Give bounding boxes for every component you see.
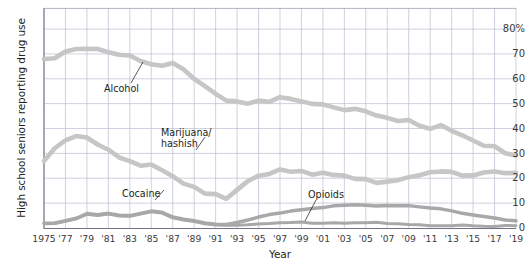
y-tick-40: 40: [489, 123, 525, 134]
y-tick-30: 30: [489, 148, 525, 159]
x-tick-2019: '19: [503, 233, 529, 244]
y-tick-0: 0: [489, 222, 525, 233]
y-tick-80: 80%: [489, 23, 525, 34]
marijuana-label: Marijuana/ hashish: [161, 128, 212, 149]
x-axis-title: Year: [44, 248, 516, 260]
cocaine-label: Cocaine: [122, 189, 160, 200]
opioids-label: Opioids: [308, 190, 344, 201]
y-tick-50: 50: [489, 98, 525, 109]
y-tick-20: 20: [489, 172, 525, 183]
alcohol-label: Alcohol: [104, 84, 139, 95]
y-axis-title: High school seniors reporting drug use: [15, 3, 27, 233]
marijuana-label-line1: Marijuana/: [161, 127, 212, 138]
y-tick-10: 10: [489, 197, 525, 208]
y-tick-60: 60: [489, 73, 525, 84]
marijuana-label-line2: hashish: [161, 138, 198, 149]
y-tick-70: 70: [489, 48, 525, 59]
